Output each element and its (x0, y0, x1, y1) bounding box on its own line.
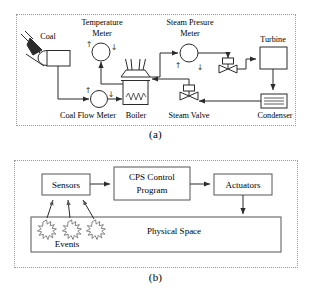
figure-root: Coal ↑ ↓ Coal Flow Meter (0, 0, 311, 292)
boiler-label: Boiler (126, 111, 147, 120)
coal-flow-meter-icon (91, 91, 108, 108)
arrow-event1-to-sensors (47, 200, 53, 218)
steam-valve-icon (180, 85, 198, 100)
cps-control-program-label-line1: CPS Control (129, 172, 175, 182)
panel-b: Sensors CPS Control Program Actuators Ph… (0, 146, 311, 292)
actuators-label: Actuators (226, 180, 261, 190)
temperature-meter-down-arrow: ↓ (111, 43, 118, 52)
coal-flow-meter-up-arrow: ↑ (85, 86, 92, 95)
steam-pressure-meter-icon (180, 44, 198, 62)
arrow-event2-to-sensors (68, 200, 70, 218)
turbine-inlet-valve-icon (219, 58, 237, 73)
temperature-meter-icon (92, 43, 110, 61)
condenser-label: Condenser (257, 111, 292, 120)
coal-flow-meter-label: Coal Flow Meter (60, 111, 116, 120)
steam-pressure-meter-label-line2: Meter (180, 29, 200, 38)
condenser-icon (261, 94, 287, 108)
cps-control-program-label-line2: Program (137, 185, 168, 195)
panel-a-diagram: Coal ↑ ↓ Coal Flow Meter (0, 0, 311, 146)
panel-a: Coal ↑ ↓ Coal Flow Meter (0, 0, 311, 146)
panel-a-caption: (a) (0, 128, 311, 140)
temperature-meter-label-line1: Temperature (81, 18, 123, 27)
sensors-label: Sensors (52, 180, 80, 190)
arrow-event3-to-sensors (83, 200, 94, 219)
physical-space-label: Physical Space (147, 226, 201, 236)
panel-b-caption: (b) (0, 271, 311, 283)
steam-valve-label: Steam Valve (168, 111, 209, 120)
coal-flow-meter-down-arrow: ↓ (108, 90, 115, 99)
pipe-boiler-to-temperature-meter (101, 62, 123, 84)
pipe-steam-valve-to-boiler (152, 79, 189, 85)
steam-pressure-meter-label-line1: Steam Presure (166, 18, 213, 27)
events-label: Events (55, 239, 80, 249)
pipe-valve-to-turbine (237, 59, 256, 69)
boiler-icon (121, 59, 150, 105)
pipe-meter-to-turbine-valve (198, 53, 228, 58)
temperature-meter-label-line2: Meter (92, 29, 112, 38)
turbine-icon (260, 47, 287, 69)
temperature-meter-up-arrow: ↑ (86, 40, 93, 49)
coal-label: Coal (40, 32, 56, 41)
turbine-label: Turbine (260, 35, 286, 44)
steam-pressure-meter-up-arrow: ↑ (175, 61, 182, 70)
coal-feeder-icon (38, 51, 70, 67)
steam-pressure-meter-down-arrow: ↓ (197, 63, 204, 72)
